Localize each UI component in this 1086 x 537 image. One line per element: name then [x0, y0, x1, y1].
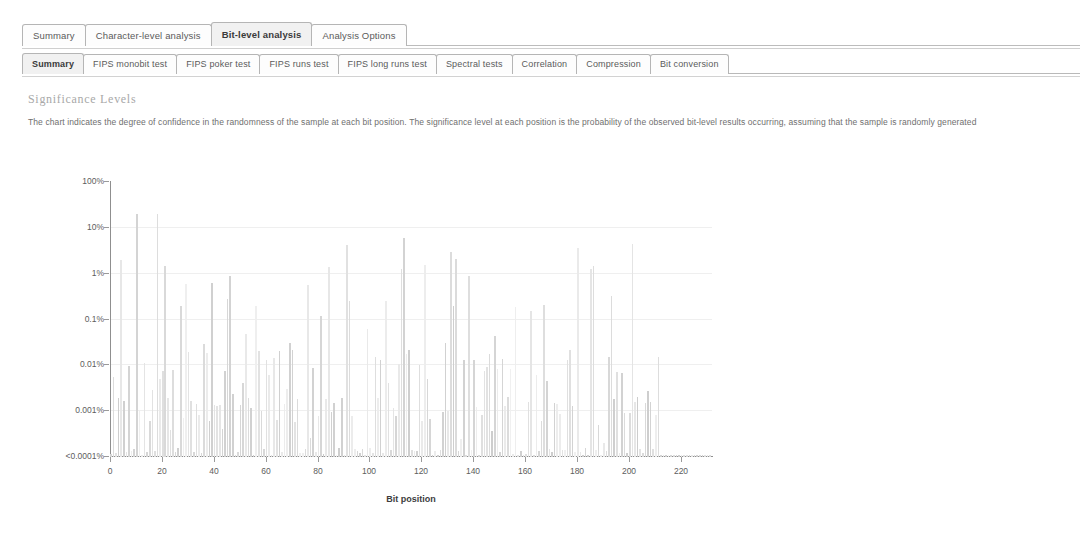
y-axis-tick	[104, 181, 109, 182]
tab-character-level-analysis[interactable]: Character-level analysis	[85, 24, 212, 47]
chart-bar	[434, 451, 436, 457]
chart-bar	[660, 455, 662, 457]
chart-bar	[650, 402, 652, 457]
chart-bar	[196, 404, 198, 457]
chart-bar	[126, 452, 128, 457]
chart-bar	[253, 455, 255, 457]
chart-bar	[276, 420, 278, 457]
chart-bar	[606, 451, 608, 457]
chart-bar	[235, 455, 237, 457]
subtab-fips-poker-test[interactable]: FIPS poker test	[176, 54, 260, 74]
chart-bar	[141, 455, 143, 457]
chart-bar	[559, 414, 561, 457]
chart-bar	[209, 421, 211, 457]
chart-bar	[414, 451, 416, 457]
chart-bar	[665, 455, 667, 457]
chart-bar	[305, 449, 307, 457]
subtab-fips-monobit-test[interactable]: FIPS monobit test	[83, 54, 177, 74]
y-axis-tick-label: 0.001%	[75, 405, 104, 415]
chart-bar	[393, 408, 395, 457]
chart-bar	[390, 450, 392, 457]
chart-bar	[491, 431, 493, 457]
y-axis-tick	[104, 456, 109, 457]
x-axis-tick-label: 140	[466, 466, 480, 476]
subtab-compression[interactable]: Compression	[576, 54, 651, 74]
chart-bar	[222, 429, 224, 457]
chart-bar	[455, 259, 457, 457]
y-axis-tick-label: <0.0001%	[65, 451, 104, 461]
chart-bar	[115, 453, 117, 457]
tab-label: Bit conversion	[660, 59, 719, 69]
chart-bar	[494, 336, 496, 457]
chart-bar	[123, 401, 125, 457]
chart-bar	[336, 455, 338, 457]
chart-bar	[663, 455, 665, 457]
chart-bar	[484, 371, 486, 457]
chart-bar	[292, 350, 294, 457]
chart-bar	[530, 311, 532, 457]
chart-bar	[676, 455, 678, 457]
chart-bar	[637, 397, 639, 457]
chart-bar	[587, 455, 589, 457]
chart-bar	[489, 354, 491, 457]
chart-bar	[162, 371, 164, 457]
chart-bar	[388, 383, 390, 457]
chart-bar	[463, 360, 465, 457]
chart-bar	[564, 450, 566, 457]
subtab-spectral-tests[interactable]: Spectral tests	[436, 54, 513, 74]
chart-bar	[432, 455, 434, 457]
chart-bar	[546, 381, 548, 457]
chart-bar	[359, 453, 361, 457]
chart-bar	[354, 449, 356, 457]
chart-bar	[603, 443, 605, 458]
y-axis-labels: 100%10%1%0.1%0.01%0.001%<0.0001%	[0, 150, 104, 530]
tab-label: Summary	[33, 30, 75, 41]
tab-label: Bit-level analysis	[222, 29, 302, 40]
chart-bar	[645, 403, 647, 457]
tab-label: Character-level analysis	[96, 30, 201, 41]
chart-bar	[421, 421, 423, 457]
chart-bar	[582, 455, 584, 457]
chart-bar	[598, 425, 600, 457]
chart-bar	[133, 449, 135, 458]
chart-bar	[152, 390, 154, 457]
x-axis-tick-label: 100	[362, 466, 376, 476]
chart-bar	[533, 455, 535, 458]
chart-bar	[219, 405, 221, 457]
chart-bar	[590, 269, 592, 457]
subtab-fips-runs-test[interactable]: FIPS runs test	[259, 54, 338, 74]
tab-summary[interactable]: Summary	[22, 24, 86, 47]
secondary-tabstrip-rail-shadow	[22, 76, 1080, 77]
chart-bar	[227, 299, 229, 457]
chart-bar	[289, 343, 291, 457]
chart-bar	[320, 316, 322, 457]
page-title: Significance Levels	[28, 92, 136, 107]
chart-bar	[167, 398, 169, 457]
subtab-summary[interactable]: Summary	[22, 53, 84, 74]
y-axis-tick-label: 10%	[87, 222, 104, 232]
chart-bar	[704, 455, 706, 457]
chart-bar	[702, 455, 704, 457]
tab-label: Analysis Options	[322, 30, 395, 41]
chart-bar	[652, 449, 654, 457]
chart-bar	[255, 306, 257, 457]
chart-bar	[266, 360, 268, 457]
tab-analysis-options[interactable]: Analysis Options	[311, 24, 406, 47]
subtab-bit-conversion[interactable]: Bit conversion	[650, 54, 729, 74]
chart-bar	[549, 449, 551, 457]
chart-bar	[517, 455, 519, 457]
subtab-correlation[interactable]: Correlation	[512, 54, 578, 74]
chart-bar	[224, 371, 226, 457]
tab-bit-level-analysis[interactable]: Bit-level analysis	[211, 22, 313, 47]
chart-bar	[567, 360, 569, 457]
subtab-fips-long-runs-test[interactable]: FIPS long runs test	[338, 54, 437, 74]
chart-bar	[180, 306, 182, 458]
chart-bar	[318, 416, 320, 457]
chart-bar	[694, 455, 696, 457]
chart-bar	[325, 399, 327, 457]
chart-bar	[658, 357, 660, 457]
chart-bar	[170, 430, 172, 458]
chart-bar	[551, 452, 553, 457]
secondary-tab-list: SummaryFIPS monobit testFIPS poker testF…	[22, 53, 728, 74]
chart-bar	[613, 399, 615, 457]
